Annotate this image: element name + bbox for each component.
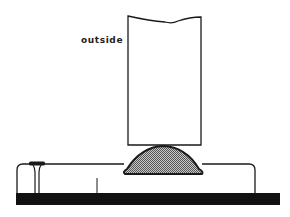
diagram-svg xyxy=(0,0,290,217)
nail-icon xyxy=(29,162,45,194)
outside-label: outside xyxy=(81,35,123,45)
right-horizontal-surface xyxy=(202,164,255,194)
base-bar xyxy=(16,193,280,205)
left-horizontal-surface xyxy=(17,164,124,194)
upright-panel xyxy=(128,16,201,145)
bead-dome xyxy=(124,146,203,174)
